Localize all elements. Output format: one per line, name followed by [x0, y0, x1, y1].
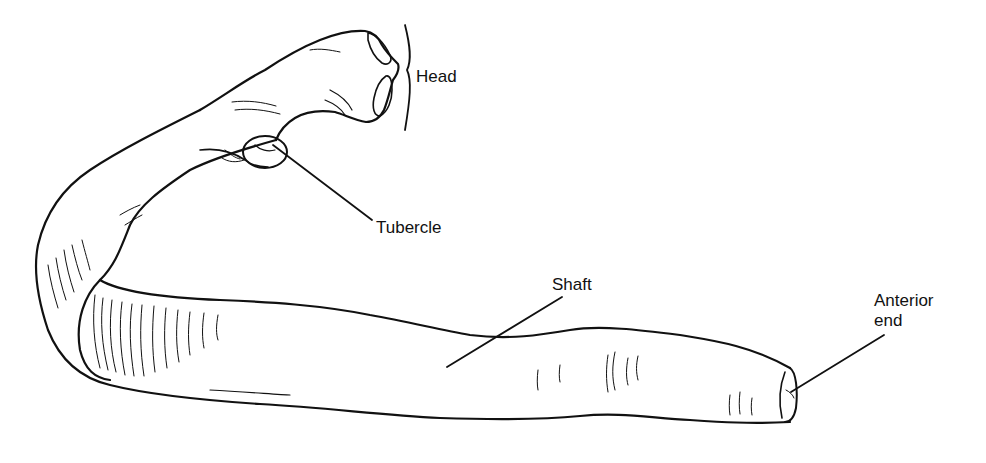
rib-anterior-end — [780, 368, 797, 422]
label-anterior-end-line2: end — [874, 311, 902, 330]
rib-drawing — [0, 0, 986, 463]
label-anterior-end-line1: Anterior — [874, 291, 934, 310]
anterior-end-leader-line — [791, 335, 884, 392]
rib-outer-edge — [36, 110, 790, 423]
head-bracket — [405, 25, 410, 130]
label-shaft: Shaft — [552, 275, 592, 294]
label-head: Head — [416, 67, 457, 86]
rib-head — [200, 25, 410, 140]
rib-diagram: Head Tubercle Shaft Anterior end — [0, 0, 986, 463]
tubercle-leader-line — [273, 145, 372, 220]
label-tubercle: Tubercle — [376, 218, 442, 237]
shaft-leader-line — [447, 297, 562, 367]
